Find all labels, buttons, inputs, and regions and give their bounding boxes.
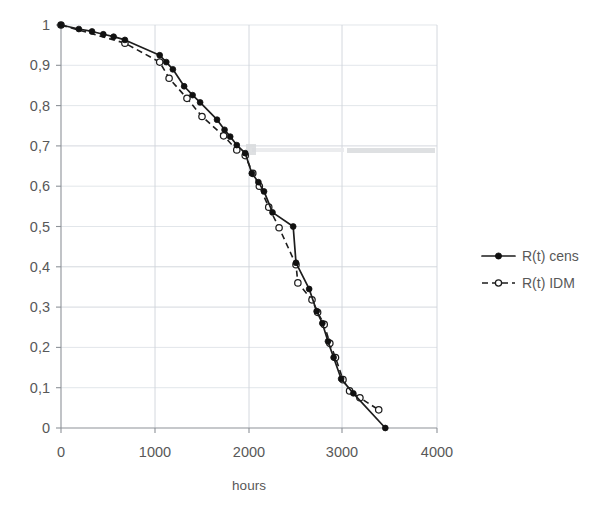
- data-point-marker: [331, 355, 337, 361]
- data-point-marker: [157, 59, 163, 65]
- reliability-chart: 1 0,9 0,8 0,7 0,6 0,5 0,4 0,3 0,2 0,1 0 …: [0, 0, 596, 505]
- scan-smudge-mid: [252, 148, 344, 152]
- x-tickmarks: [61, 428, 437, 433]
- legend-label-rt-idm: R(t) IDM: [522, 275, 575, 291]
- data-point-marker: [295, 280, 301, 286]
- xtick-label: 0: [57, 444, 65, 460]
- data-point-marker: [100, 31, 106, 37]
- data-point-marker: [111, 34, 117, 40]
- data-point-marker: [157, 52, 163, 58]
- data-point-marker: [256, 179, 262, 185]
- data-point-marker: [190, 92, 196, 98]
- ytick-label: 1: [42, 17, 50, 33]
- data-point-marker: [199, 113, 205, 119]
- ytick-label: 0,5: [30, 219, 50, 235]
- chart-canvas: 1 0,9 0,8 0,7 0,6 0,5 0,4 0,3 0,2 0,1 0 …: [0, 0, 596, 505]
- data-point-marker: [382, 425, 388, 431]
- data-point-marker: [76, 26, 82, 32]
- data-point-marker: [222, 127, 228, 133]
- legend-item-rt-cens[interactable]: R(t) cens: [482, 248, 579, 264]
- data-point-marker: [293, 260, 299, 266]
- data-point-marker: [184, 95, 190, 101]
- data-point-marker: [166, 75, 172, 81]
- xtick-label: 2000: [233, 444, 265, 460]
- data-point-marker: [122, 37, 128, 43]
- data-point-marker: [314, 308, 320, 314]
- data-point-marker: [319, 320, 325, 326]
- data-point-marker: [350, 390, 356, 396]
- y-tickmarks: [56, 25, 61, 428]
- data-point-marker: [338, 376, 344, 382]
- data-point-marker: [261, 189, 267, 195]
- data-point-marker: [276, 225, 282, 231]
- data-point-marker: [214, 117, 220, 123]
- xtick-label: 3000: [326, 444, 358, 460]
- legend-label-rt-cens: R(t) cens: [522, 248, 579, 264]
- legend-item-rt-idm[interactable]: R(t) IDM: [482, 275, 575, 291]
- ytick-label: 0,3: [30, 299, 50, 315]
- ytick-label: 0,6: [30, 178, 50, 194]
- data-point-marker: [89, 29, 95, 35]
- ytick-label: 0,7: [30, 138, 50, 154]
- x-axis-tick-labels: 0 1000 2000 3000 4000: [57, 444, 453, 460]
- xtick-label: 4000: [421, 444, 453, 460]
- ytick-label: 0,1: [30, 380, 50, 396]
- ytick-label: 0: [42, 420, 50, 436]
- data-point-marker: [58, 22, 64, 28]
- xtick-label: 1000: [139, 444, 171, 460]
- data-point-marker: [197, 99, 203, 105]
- data-point-marker: [234, 142, 240, 148]
- ytick-label: 0,8: [30, 98, 50, 114]
- data-point-marker: [220, 133, 226, 139]
- data-point-marker: [170, 66, 176, 72]
- data-point-marker: [227, 134, 233, 140]
- legend-swatch-marker-filled: [495, 253, 501, 259]
- data-point-marker: [306, 286, 312, 292]
- legend: R(t) cens R(t) IDM: [482, 248, 579, 291]
- data-point-marker: [249, 170, 255, 176]
- ytick-label: 0,2: [30, 339, 50, 355]
- data-point-marker: [242, 150, 248, 156]
- scan-smudge-right: [347, 148, 435, 153]
- data-point-marker: [163, 59, 169, 65]
- ytick-label: 0,4: [30, 259, 50, 275]
- data-point-marker: [325, 338, 331, 344]
- ytick-label: 0,9: [30, 57, 50, 73]
- data-point-marker: [290, 224, 296, 230]
- y-axis-tick-labels: 1 0,9 0,8 0,7 0,6 0,5 0,4 0,3 0,2 0,1 0: [30, 17, 50, 436]
- x-axis-title: hours: [232, 478, 266, 493]
- legend-swatch-marker-open: [495, 280, 501, 286]
- data-point-marker: [270, 209, 276, 215]
- data-point-marker: [376, 407, 382, 413]
- data-point-marker: [181, 83, 187, 89]
